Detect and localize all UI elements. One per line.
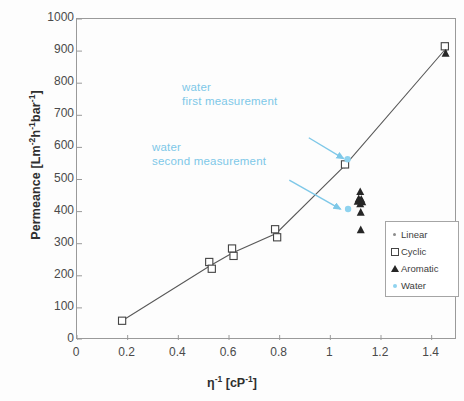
annotation-water-second-measurement: water second measurement bbox=[152, 140, 266, 169]
legend-marker-open-square-icon bbox=[389, 248, 400, 256]
y-tick-label: 400 bbox=[34, 203, 74, 217]
y-tick-label: 700 bbox=[34, 106, 74, 120]
y-tick-label: 200 bbox=[34, 267, 74, 281]
x-tick-label: 0.2 bbox=[107, 345, 147, 359]
legend-item-aromatic[interactable]: Aromatic bbox=[389, 260, 458, 277]
x-tick-label: 0.8 bbox=[259, 345, 299, 359]
legend-marker-filled-triangle-icon bbox=[389, 265, 400, 272]
annotation-arrows bbox=[289, 138, 343, 209]
data-point-water bbox=[344, 156, 350, 162]
y-tick-label: 300 bbox=[34, 235, 74, 249]
data-point-cyclic bbox=[208, 265, 215, 272]
legend-item-water[interactable]: Water bbox=[389, 277, 458, 294]
data-point-aromatic bbox=[357, 226, 365, 234]
legend-item-label: Linear bbox=[400, 229, 427, 240]
annotation-line-1: water bbox=[182, 81, 211, 93]
x-tick-label: 0.4 bbox=[157, 345, 197, 359]
legend-item-label: Water bbox=[400, 280, 426, 291]
data-point-cyclic bbox=[274, 234, 281, 241]
x-tick-label: 0.6 bbox=[208, 345, 248, 359]
x-tick-label: 1 bbox=[309, 345, 349, 359]
annotation-water-first-measurement: water first measurement bbox=[182, 80, 277, 109]
data-point-aromatic bbox=[357, 208, 365, 216]
annotation-line-1: water bbox=[152, 141, 181, 153]
x-axis-title: η-1 [cP-1] bbox=[0, 376, 464, 390]
legend-item-label: Cyclic bbox=[400, 246, 426, 257]
axis-ticks bbox=[77, 19, 432, 340]
data-point-water bbox=[345, 206, 351, 212]
annotation-line-2: second measurement bbox=[152, 155, 266, 167]
y-tick-label: 0 bbox=[34, 331, 74, 345]
y-tick-label: 800 bbox=[34, 74, 74, 88]
y-axis-tick-labels: 01002003004005006007008009001000 bbox=[28, 0, 74, 401]
data-point-cyclic bbox=[230, 252, 237, 259]
y-tick-label: 100 bbox=[34, 299, 74, 313]
x-tick-label: 1.4 bbox=[411, 345, 451, 359]
data-point-cyclic bbox=[118, 317, 125, 324]
legend-marker-small-circle-icon bbox=[389, 233, 400, 236]
y-tick-label: 1000 bbox=[34, 10, 74, 24]
data-point-cyclic bbox=[441, 43, 448, 50]
y-tick-label: 500 bbox=[34, 171, 74, 185]
annotation-line-2: first measurement bbox=[182, 95, 277, 107]
x-tick-label: 0 bbox=[56, 345, 96, 359]
y-tick-label: 600 bbox=[34, 138, 74, 152]
data-point-aromatic bbox=[356, 187, 364, 195]
y-tick-label: 900 bbox=[34, 42, 74, 56]
legend-marker-filled-circle-icon bbox=[389, 284, 400, 288]
legend-item-linear[interactable]: Linear bbox=[389, 226, 458, 243]
permeance-viscosity-chart: Permeance [Lm-2h-1bar-1] 010020030040050… bbox=[0, 0, 464, 401]
data-point-cyclic bbox=[272, 226, 279, 233]
legend-item-label: Aromatic bbox=[400, 263, 438, 274]
data-point-cyclic bbox=[206, 258, 213, 265]
data-point-cyclic bbox=[228, 245, 235, 252]
legend-item-cyclic[interactable]: Cyclic bbox=[389, 243, 458, 260]
chart-legend: LinearCyclicAromaticWater bbox=[385, 221, 459, 297]
x-tick-label: 1.2 bbox=[360, 345, 400, 359]
x-axis-tick-labels: 00.20.40.60.811.21.4 bbox=[0, 345, 464, 365]
